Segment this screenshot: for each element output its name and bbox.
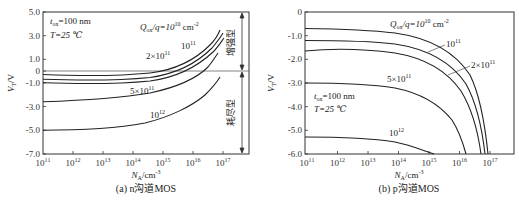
arrow-up-icon [240,72,244,77]
y-tick-label: -3.0 [26,102,41,112]
curve-qox-1e12 [43,77,220,130]
curve-label-5e11: 5×1011 [130,85,154,96]
y-tick-label: 0 [298,7,303,17]
chart-a-y-tick-labels: 5.0 3.0 1.0 0 -1.0 -3.0 -5.0 -7.0 [26,7,41,159]
chart-a-x-axis-label: NA/cm-3 [131,169,161,181]
x-tick-label: 1016 [452,157,467,168]
temperature-annotation: T=25 ℃ [314,104,347,114]
curve-qox-2e11 [305,49,481,154]
chart-a-curves [43,30,224,130]
y-tick-label: -5.0 [26,125,41,135]
figure: 5.0 3.0 1.0 0 -1.0 -3.0 -5.0 -7.0 1011 1… [0,0,519,202]
temperature-annotation: T=25 ℃ [50,30,83,40]
arrow-up-icon [240,13,244,18]
chart-b-x-tick-labels: 1011 1012 1013 1014 1015 1016 1017 [300,157,498,168]
x-tick-label: 1016 [186,157,201,168]
curve-label-1e11: 1011 [181,40,196,51]
y-tick-label: -5.0 [288,125,303,135]
x-tick-label: 1014 [391,157,406,168]
curve-label-5e11: 5×1011 [387,73,411,84]
x-tick-label: 1017 [483,157,498,168]
y-tick-label: 1.0 [29,54,41,64]
region-label-depletion: 耗尽型 [226,99,236,126]
chart-a-caption: (a) n沟道MOS [116,182,176,195]
curve-label-2e11: 2×1011 [146,50,170,61]
y-tick-label: -3.0 [288,78,303,88]
curve-label-1e12: 1012 [389,127,404,138]
tox-annotation: tox=100 nm [50,16,91,27]
y-tick-label: -1.0 [26,78,41,88]
x-tick-label: 1012 [330,157,345,168]
chart-a-region-arrows [240,13,244,153]
chart-b-y-axis-label: VT/V [266,73,277,92]
x-tick-label: 1015 [422,157,437,168]
x-tick-label: 1013 [96,157,111,168]
qox-label: Qox/q=1010 cm-2 [140,21,199,33]
arrow-down-icon [240,65,244,70]
chart-b-caption: (b) p沟道MOS [379,182,440,195]
x-tick-label: 1017 [216,157,231,168]
x-tick-label: 1011 [36,157,51,168]
chart-b: 0 -1.0 -2.0 -3.0 -4.0 -5.0 -6.0 1011 101… [266,7,514,195]
chart-a-y-axis-label: VT/V [6,73,17,92]
y-tick-label: 0 [36,66,41,76]
curve-label-1e11: 1011 [446,38,461,49]
y-tick-label: -4.0 [288,102,303,112]
x-tick-label: 1011 [300,157,315,168]
qox-label: Qox/q=1010 cm-2 [390,18,449,30]
chart-a: 5.0 3.0 1.0 0 -1.0 -3.0 -5.0 -7.0 1011 1… [6,7,249,195]
tox-annotation: tox=100 nm [314,91,355,102]
y-tick-label: 3.0 [29,31,41,41]
curve-label-2e11: 2×1011 [471,59,495,70]
y-tick-label: 5.0 [29,7,41,17]
curve-qox-1e12 [305,137,434,154]
x-tick-label: 1015 [156,157,171,168]
arrow-down-icon [240,148,244,153]
chart-b-x-axis-label: NA/cm-3 [394,169,424,181]
x-tick-label: 1013 [361,157,376,168]
chart-b-y-tick-labels: 0 -1.0 -2.0 -3.0 -4.0 -5.0 -6.0 [288,7,303,159]
y-tick-label: -2.0 [288,54,303,64]
x-tick-label: 1014 [126,157,141,168]
chart-a-x-tick-labels: 1011 1012 1013 1014 1015 1016 1017 [36,157,231,168]
region-label-enhancement: 增强型 [225,29,236,56]
x-tick-label: 1012 [66,157,81,168]
y-tick-label: -1.0 [288,31,303,41]
